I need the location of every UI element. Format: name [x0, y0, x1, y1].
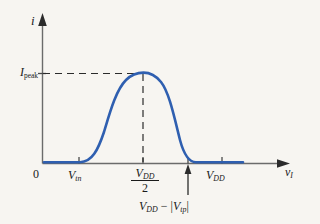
vdd-half-numerator: VDD [128, 167, 162, 180]
ipeak-label-subscript: peak [24, 71, 38, 80]
ipeak-label: Ipeak [20, 66, 38, 78]
vtn-label-subscript: tn [75, 174, 81, 183]
y-axis-label: i [31, 14, 35, 27]
vdd-label-subscript: DD [213, 174, 224, 183]
origin-label: 0 [33, 168, 39, 180]
vdd-tick-label: VDD [206, 169, 225, 181]
vtn-tick-label: Vtn [68, 169, 82, 181]
vdd-half-denominator: 2 [128, 181, 162, 194]
vdd-minus-vtp-operator: − | [158, 199, 173, 213]
vdd-minus-vtp-second-subscript: tp [180, 205, 186, 214]
vdd-half-tick-label: VDD 2 [128, 167, 162, 194]
x-axis-label: vI [285, 166, 293, 178]
vdd-minus-vtp-first-subscript: DD [146, 205, 157, 214]
vdd-half-numerator-main: V [136, 166, 143, 180]
vdd-half-numerator-subscript: DD [143, 172, 154, 181]
x-axis-label-subscript: I [290, 171, 293, 180]
vdd-minus-vtp-annotation: VDD − |Vtp| [139, 200, 189, 212]
vdd-minus-vtp-close-bar: | [186, 199, 188, 213]
